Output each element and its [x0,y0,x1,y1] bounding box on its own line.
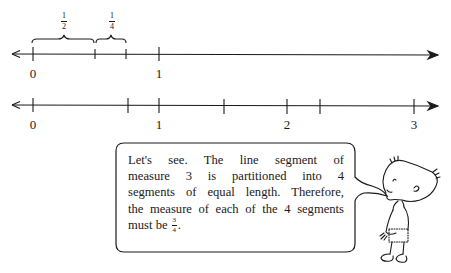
frac-denominator: 4 [172,227,176,234]
line2-label-3: 3 [411,118,418,131]
frac-numerator: 1 [110,12,114,20]
line1-label-0: 0 [30,67,37,80]
frac-denominator: 4 [110,23,114,31]
frac-denominator: 2 [62,23,66,31]
number-line-1 [12,35,438,61]
frac-numerator: 3 [172,217,176,224]
bubble-text-line: Let's see. The line segment of [128,152,344,168]
bubble-text-line: the measure of each of the 4 segments [128,201,344,217]
bubble-text-last-line: must be 34. [128,217,344,235]
number-line-2 [12,98,438,114]
line1-label-1: 1 [156,67,163,80]
fraction-three-quarters: 34 [172,217,177,234]
line2-label-2: 2 [284,118,291,131]
frac-numerator: 1 [62,12,66,20]
bubble-text-prefix: must be [128,218,168,232]
line2-label-1: 1 [156,118,163,131]
cartoon-boy-illustration [380,156,440,262]
bubble-text-suffix: . [178,218,181,232]
line2-label-0: 0 [30,118,37,131]
brace-label-one-quarter: 1 4 [109,12,115,31]
speech-bubble: Let's see. The line segment of measure 3… [116,143,354,252]
bubble-text-line: measure 3 is partitioned into 4 [128,168,344,184]
bubble-text-line: segments of equal length. Therefore, [128,184,344,200]
brace-label-one-half: 1 2 [61,12,67,31]
